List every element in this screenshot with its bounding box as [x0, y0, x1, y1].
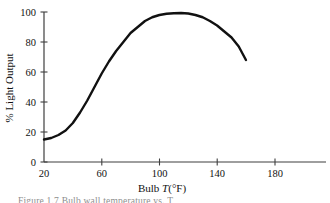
y-tick-label: 40	[26, 97, 37, 108]
x-tick-label: 100	[152, 168, 168, 179]
y-axis-title: % Light Output	[3, 53, 15, 122]
light-output-line-chart: 0 20 40 60 80 100 20 60 100 140 180 Bulb…	[0, 0, 330, 203]
x-axis-title: Bulb T(°F)	[138, 182, 186, 195]
x-tick-label: 180	[267, 168, 283, 179]
y-tick-label: 100	[20, 7, 36, 18]
x-tick-label: 140	[209, 168, 225, 179]
y-tick-label: 60	[26, 67, 37, 78]
x-tick-label: 20	[39, 168, 50, 179]
figure-container: 0 20 40 60 80 100 20 60 100 140 180 Bulb…	[0, 0, 330, 203]
figure-caption: Figure 1.7 Bulb wall temperature vs. T	[18, 196, 318, 203]
y-tick-label: 20	[26, 127, 37, 138]
y-tick-label: 0	[31, 157, 36, 168]
x-tick-label: 60	[97, 168, 108, 179]
y-tick-label: 80	[26, 37, 37, 48]
